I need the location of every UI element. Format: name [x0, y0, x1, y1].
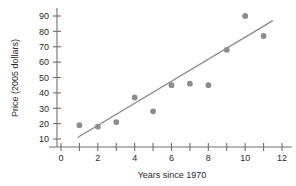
y-tick-label-70: 70	[39, 42, 49, 52]
data-points	[77, 13, 267, 129]
data-point	[113, 119, 119, 125]
y-tick-label-40: 40	[39, 88, 49, 98]
x-tick-label-4: 4	[132, 153, 137, 163]
data-point	[132, 95, 138, 101]
trend-line	[78, 21, 273, 138]
x-tick-label-12: 12	[277, 153, 287, 163]
x-tick-label-2: 2	[95, 153, 100, 163]
data-point	[77, 122, 83, 128]
x-tick-label-8: 8	[206, 153, 211, 163]
x-axis-title: Years since 1970	[138, 170, 207, 180]
y-tick-label-50: 50	[39, 73, 49, 83]
y-axis-title: Price (2005 dollars)	[10, 39, 20, 117]
data-point	[224, 47, 230, 53]
y-tick-label-30: 30	[39, 104, 49, 114]
data-point	[261, 33, 267, 39]
scatter-plot-figure: 102030405060708090 024681012 Price (2005…	[0, 0, 296, 186]
data-point	[95, 124, 101, 130]
y-tick-label-90: 90	[39, 11, 49, 21]
data-point	[150, 108, 156, 114]
data-point	[205, 82, 211, 88]
x-tick-label-6: 6	[169, 153, 174, 163]
y-axis: 102030405060708090	[39, 8, 61, 147]
x-axis: 024681012	[49, 143, 292, 163]
x-tick-label-0: 0	[58, 153, 63, 163]
y-tick-label-10: 10	[39, 134, 49, 144]
data-point	[187, 81, 193, 87]
x-tick-label-10: 10	[240, 153, 250, 163]
data-point	[169, 82, 175, 88]
y-tick-label-20: 20	[39, 119, 49, 129]
plot-canvas: 102030405060708090 024681012 Price (2005…	[0, 0, 296, 186]
y-tick-label-80: 80	[39, 27, 49, 37]
trend-line-segment	[78, 21, 273, 138]
y-tick-label-60: 60	[39, 57, 49, 67]
data-point	[242, 13, 248, 19]
